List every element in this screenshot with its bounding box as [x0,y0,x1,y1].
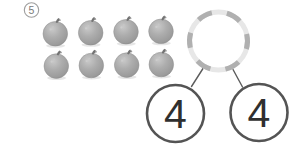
connector-line-left [192,69,204,87]
orange-group [43,16,174,80]
part-circle-left: 4 [147,85,204,142]
part-value-right: 4 [248,90,271,136]
orange-icon [44,50,69,80]
orange-icon [149,16,174,46]
orange-icon [78,17,103,47]
problem-number-badge: 5 [24,3,38,17]
orange-icon [79,50,104,80]
orange-icon [43,18,68,48]
worksheet-item: 5 4 4 [0,0,297,149]
orange-icon [114,49,139,79]
part-value-left: 4 [164,91,187,137]
problem-number: 5 [29,4,35,16]
part-circle-right: 4 [231,84,288,141]
orange-icon [149,49,174,79]
orange-icon [114,16,139,46]
worksheet-canvas: 5 4 4 [0,0,297,149]
whole-circle[interactable] [183,6,253,76]
connector-line-right [233,70,243,88]
